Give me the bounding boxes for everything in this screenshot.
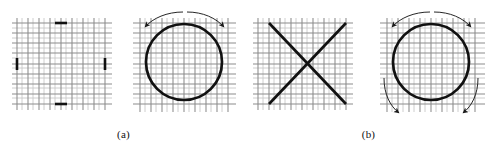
- panel-1-canvas: [0, 0, 123, 128]
- arrow-bottom-right-icon: [463, 78, 478, 113]
- arrow-bottom-left-icon: [384, 78, 399, 113]
- panel-deformed-grid-circle-two-arrows: [123, 0, 246, 128]
- panel-4-canvas: [368, 0, 491, 128]
- caption-b: (b): [307, 126, 430, 142]
- panel-undeformed-grid-with-load-markers: [0, 0, 123, 128]
- panel-3-canvas: [245, 0, 368, 128]
- caption-a: (a): [62, 126, 185, 142]
- figure-root: (a) (b): [0, 0, 491, 151]
- panel-2-canvas: [123, 0, 246, 128]
- panel-deformed-grid-circle-four-arrows: [368, 0, 491, 128]
- panel-grid-with-diagonal-cross: [245, 0, 368, 128]
- grid-lines-major: [12, 18, 112, 110]
